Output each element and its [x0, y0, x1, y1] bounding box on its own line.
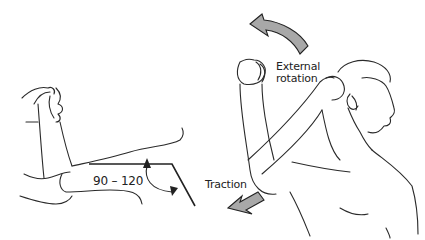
external-rotation-label: External rotation [276, 61, 320, 85]
diagram-figure: 90 – 120 External rotation Traction [0, 0, 425, 240]
traction-arrow [228, 192, 264, 214]
left-arm-illustration [20, 87, 195, 206]
traction-label: Traction [205, 179, 247, 191]
angle-label: 90 – 120 [93, 175, 143, 187]
rotation-arrow [250, 14, 308, 54]
right-man-illustration [228, 14, 418, 238]
rotation-label-line2: rotation [276, 73, 320, 85]
illustration [0, 0, 425, 240]
